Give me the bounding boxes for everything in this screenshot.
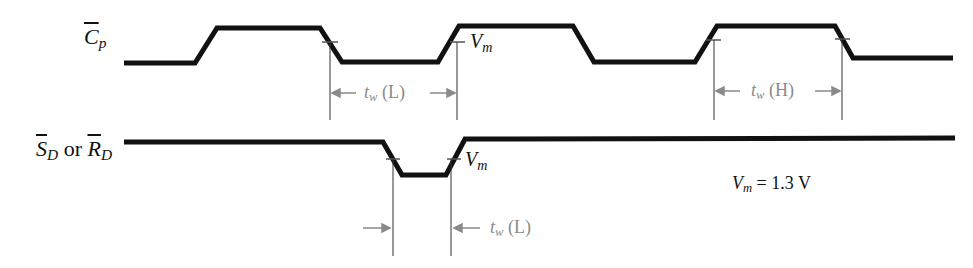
- cp-vm-markers: [322, 39, 850, 42]
- signal-label-cp: Cp: [84, 24, 106, 52]
- vm-value-letter: V: [732, 173, 743, 193]
- signal-label-sd-rd: SD or RD: [36, 136, 112, 164]
- or-text: or: [64, 136, 82, 161]
- vm-label-sd: Vm: [465, 148, 487, 174]
- vm-label-cp: Vm: [470, 30, 492, 56]
- cp-waveform: [124, 26, 953, 63]
- vm-letter: V: [465, 148, 477, 170]
- tw-sub: w: [756, 88, 764, 102]
- vm-letter: V: [470, 30, 482, 52]
- vm-value-note: Vm = 1.3 V: [732, 173, 811, 196]
- vm-value-sub: m: [743, 181, 752, 195]
- tw-suffix: (L): [508, 217, 531, 237]
- tw-high-label-cp: tw (H): [751, 80, 794, 103]
- tw-sub: w: [495, 225, 503, 239]
- tw-suffix: (H): [769, 80, 794, 100]
- tw-suffix: (L): [382, 82, 405, 102]
- sd-letter: S: [36, 136, 47, 161]
- tw-sub: w: [369, 90, 377, 104]
- tw-low-label-sd: tw (L): [490, 217, 531, 240]
- cp-sub: p: [99, 34, 107, 51]
- vm-sub: m: [482, 40, 492, 55]
- sd-sub: D: [47, 146, 58, 163]
- rd-letter: R: [87, 136, 100, 161]
- rd-sub: D: [101, 146, 112, 163]
- vm-value-text: = 1.3 V: [757, 173, 811, 193]
- vm-sub: m: [477, 158, 487, 173]
- sd-tw-arrows: [363, 224, 480, 232]
- sd-rd-waveform: [124, 138, 955, 175]
- cp-letter: C: [84, 24, 99, 49]
- tw-low-label-cp: tw (L): [364, 82, 405, 105]
